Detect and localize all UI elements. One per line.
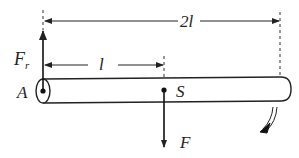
label-full-length: 2l bbox=[180, 12, 194, 31]
rotation-direction-icon bbox=[260, 107, 277, 133]
label-reaction-force: Fr bbox=[13, 49, 30, 71]
label-half-length: l bbox=[99, 55, 104, 74]
rod-diagram: Fr l 2l A S F bbox=[0, 0, 299, 158]
label-pivot-a: A bbox=[16, 83, 28, 102]
label-center-s: S bbox=[176, 82, 185, 101]
label-applied-force: F bbox=[179, 133, 191, 152]
